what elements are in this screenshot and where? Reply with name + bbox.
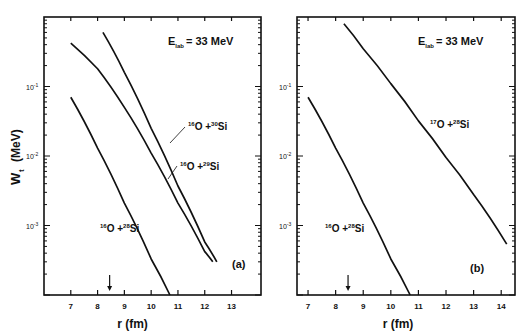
- x-tick-label: 13: [469, 302, 478, 311]
- series-line: [308, 97, 410, 295]
- series-label: 16O +28Si: [100, 223, 139, 234]
- x-axis-label: r (fm): [117, 317, 148, 331]
- x-axis-label: r (fm): [383, 317, 414, 331]
- x-tick-label: 11: [174, 302, 183, 311]
- x-tick-label: 13: [227, 302, 236, 311]
- x-tick-label: 10: [386, 302, 395, 311]
- panel-label: (a): [232, 258, 246, 270]
- svg-text:t: t: [17, 169, 26, 172]
- series-label: 17O +28Si: [430, 119, 469, 130]
- x-tick-label: 9: [122, 302, 127, 311]
- y-tick-label: 10-1: [26, 82, 38, 91]
- series-line: [71, 43, 213, 262]
- x-tick-label: 8: [333, 302, 338, 311]
- series-label: 16O +30Si: [188, 121, 227, 132]
- x-tick-label: 14: [497, 302, 506, 311]
- y-tick-label: 10-2: [26, 151, 38, 160]
- x-tick-label: 10: [147, 302, 156, 311]
- x-tick-label: 12: [442, 302, 451, 311]
- x-tick-label: 7: [69, 302, 74, 311]
- arrow-head-icon: [107, 286, 112, 291]
- x-tick-label: 12: [200, 302, 209, 311]
- y-tick-label: 10-3: [26, 221, 38, 230]
- energy-annotation: Elab= 33 MeV: [168, 35, 234, 49]
- chart-canvas: W t (MeV) 7891011121310-110-210-3r (fm)E…: [0, 0, 529, 333]
- series-label: 16O +28Si: [325, 223, 364, 234]
- plot-frame: [297, 17, 515, 295]
- x-tick-label: 7: [306, 302, 311, 311]
- svg-text:(MeV): (MeV): [9, 129, 23, 162]
- panel-label: (b): [470, 262, 484, 274]
- x-tick-label: 11: [414, 302, 423, 311]
- svg-text:W: W: [8, 172, 23, 185]
- figure: W t (MeV) 7891011121310-110-210-3r (fm)E…: [0, 0, 529, 333]
- y-tick-label: 10-1: [279, 82, 291, 91]
- y-axis-label: W t (MeV): [8, 129, 26, 185]
- y-tick-label: 10-2: [279, 151, 291, 160]
- series-label: 16O +29Si: [180, 161, 219, 172]
- x-tick-label: 9: [361, 302, 366, 311]
- label-leader-line: [170, 127, 185, 143]
- panel-b: 789101112131410-110-210-3r (fm)Elab= 33 …: [279, 17, 515, 331]
- panel-a: 7891011121310-110-210-3r (fm)Elab= 33 Me…: [26, 17, 261, 331]
- energy-annotation: Elab= 33 MeV: [418, 35, 484, 49]
- y-tick-label: 10-3: [279, 221, 291, 230]
- series-line: [71, 97, 170, 295]
- x-tick-label: 8: [95, 302, 100, 311]
- arrow-head-icon: [346, 286, 351, 291]
